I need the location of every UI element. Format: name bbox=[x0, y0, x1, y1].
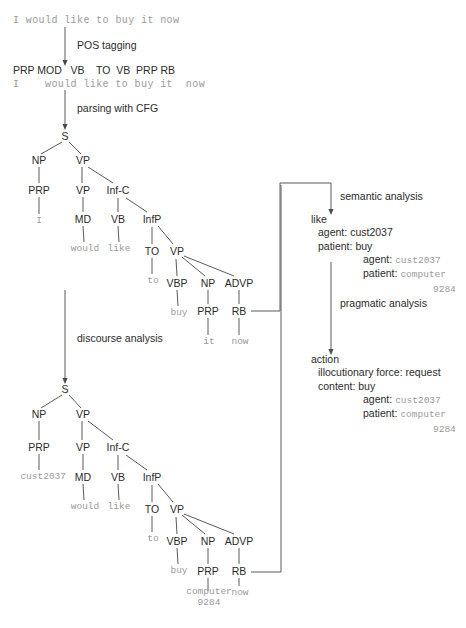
tree-node-rb: RB bbox=[232, 566, 247, 577]
tree-node-vbp: VBP bbox=[166, 278, 187, 289]
tree-node-vb: VB bbox=[111, 472, 125, 483]
tree-node-vb: VB bbox=[111, 214, 125, 225]
tree-node-np: NP bbox=[32, 409, 47, 420]
tree-node-s: S bbox=[61, 384, 68, 395]
tree-node-to: TO bbox=[145, 246, 159, 257]
frame-value: computer bbox=[400, 269, 446, 280]
label-semantic: semantic analysis bbox=[340, 191, 423, 202]
tree-node-md: MD bbox=[75, 214, 91, 225]
tree-terminal-it: it bbox=[203, 337, 214, 348]
tree-terminal-like: like bbox=[108, 244, 131, 255]
tree-node-prp: PRP bbox=[28, 442, 50, 453]
tree-node-advp: ADVP bbox=[225, 278, 254, 289]
label-pragmatic: pragmatic analysis bbox=[340, 298, 427, 309]
pragmatic-frame: actionillocutionary force: requestconten… bbox=[311, 353, 456, 436]
tree-node-np: NP bbox=[32, 155, 47, 166]
tree-terminal-now: now bbox=[231, 588, 248, 599]
tree-node-vp: VP bbox=[170, 246, 184, 257]
tree-terminal-comp: computer9284 bbox=[186, 587, 232, 608]
tree-node-prp: PRP bbox=[197, 306, 219, 317]
frame-line-4: 9284 bbox=[311, 422, 456, 436]
frame-line-0: illocutionary force: request bbox=[311, 366, 456, 379]
tree-terminal-toW: to bbox=[147, 534, 158, 545]
tree-node-vbp: VBP bbox=[166, 536, 187, 547]
tree-terminal-buy: buy bbox=[170, 566, 187, 577]
tree-terminal-now: now bbox=[231, 337, 248, 348]
frame-value: 9284 bbox=[433, 284, 456, 295]
pipeline-diagram: I would like to buy it now POS tagging p… bbox=[0, 0, 466, 628]
tree-terminal-toW: to bbox=[147, 276, 158, 287]
tree2-edges bbox=[39, 395, 239, 591]
tree-terminal-would: would bbox=[71, 502, 100, 513]
frame-line-1: content: buy bbox=[311, 380, 456, 393]
tree-node-to: TO bbox=[145, 504, 159, 515]
tree-node-md: MD bbox=[75, 472, 91, 483]
tree-node-inf-c: Inf-C bbox=[107, 185, 130, 196]
tree-node-vp: VP bbox=[76, 409, 90, 420]
tree-node-np: NP bbox=[201, 278, 216, 289]
frame-line-4: 9284 bbox=[311, 282, 456, 296]
label-pos-tagging: POS tagging bbox=[77, 40, 137, 51]
label-parsing: parsing with CFG bbox=[77, 103, 158, 114]
source-sentence: I would like to buy it now bbox=[13, 15, 179, 26]
tree-node-vp: VP bbox=[76, 442, 90, 453]
frame-head: action bbox=[311, 353, 456, 366]
tree-node-vp: VP bbox=[76, 155, 90, 166]
frame-line-0: agent: cust2037 bbox=[311, 226, 456, 239]
tree-node-advp: ADVP bbox=[225, 536, 254, 547]
tree-terminal-buy: buy bbox=[170, 308, 187, 319]
tree-node-prp: PRP bbox=[28, 185, 50, 196]
frame-line-2: agent: cust2037 bbox=[311, 393, 456, 407]
tree-node-s: S bbox=[61, 131, 68, 142]
tree-node-prp: PRP bbox=[197, 566, 219, 577]
tree-terminal-would: would bbox=[71, 244, 100, 255]
frame-line-3: patient: computer bbox=[311, 267, 456, 281]
frame-value: cust2037 bbox=[395, 255, 441, 266]
frame-value: 9284 bbox=[433, 424, 456, 435]
tree-node-rb: RB bbox=[232, 306, 247, 317]
connector-tree2-to-rail bbox=[251, 185, 281, 572]
tree-node-infp: InfP bbox=[143, 214, 162, 225]
frame-head: like bbox=[311, 213, 456, 226]
label-discourse: discourse analysis bbox=[77, 333, 163, 344]
frame-line-2: agent: cust2037 bbox=[311, 253, 456, 267]
tree-node-vp: VP bbox=[76, 185, 90, 196]
frame-line-1: patient: buy bbox=[311, 240, 456, 253]
frame-value: computer bbox=[400, 409, 446, 420]
tree-node-inf-c: Inf-C bbox=[107, 442, 130, 453]
tree-terminal-cust: cust2037 bbox=[20, 472, 66, 483]
tree-terminal-i: I bbox=[36, 216, 42, 227]
frame-value: cust2037 bbox=[395, 395, 441, 406]
frame-line-3: patient: computer bbox=[311, 407, 456, 421]
tree-node-np: NP bbox=[201, 536, 216, 547]
tree-node-vp: VP bbox=[170, 504, 184, 515]
semantic-frame: likeagent: cust2037patient: buyagent: cu… bbox=[311, 213, 456, 296]
pos-tag-row: PRP MOD VB TO VB PRP RB bbox=[13, 64, 175, 76]
tree-terminal-like: like bbox=[108, 502, 131, 513]
tree-node-infp: InfP bbox=[143, 472, 162, 483]
pos-word-row: I would like to buy it now bbox=[13, 79, 205, 90]
